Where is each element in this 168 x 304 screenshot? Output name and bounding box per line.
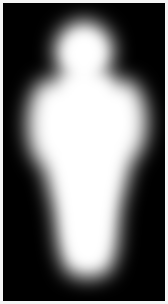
head-core [66, 35, 102, 71]
image-frame-border: Soft-edged white human figure silhouette… [0, 0, 168, 304]
left-shoulder-region [27, 80, 68, 169]
silhouette-image-viewer: Soft-edged white human figure silhouette… [0, 0, 168, 304]
mask-canvas-container: Soft-edged white human figure silhouette… [3, 3, 165, 301]
blurred-silhouette-mask [3, 3, 165, 301]
